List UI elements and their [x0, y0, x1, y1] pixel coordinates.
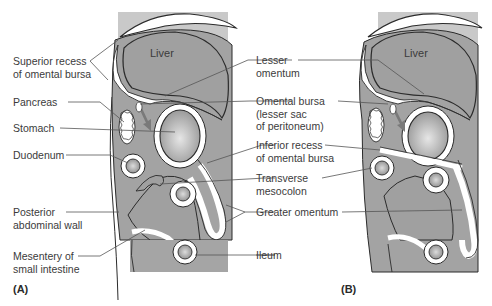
label-pancreas: Pancreas — [13, 96, 57, 109]
label-greater-omentum: Greater omentum — [256, 206, 338, 219]
liver-label-b: Liver — [404, 47, 428, 60]
label-duodenum: Duodenum — [13, 149, 64, 162]
label-posterior-abdominal-wall: Posterior abdominal wall — [13, 206, 82, 231]
label-omental-bursa: Omental bursa (lesser sac of peritoneum) — [256, 95, 325, 133]
label-mesentery: Mesentery of small intestine — [13, 250, 80, 275]
label-ileum: Ileum — [256, 249, 282, 262]
liver-label-a: Liver — [150, 47, 174, 60]
label-lesser-omentum: Lesser omentum — [256, 54, 300, 79]
label-stomach: Stomach — [13, 122, 54, 135]
panel-label-a: (A) — [13, 283, 28, 295]
label-superior-recess: Superior recess of omental bursa — [13, 55, 91, 80]
label-transverse-mesocolon: Transverse mesocolon — [256, 172, 308, 197]
panel-label-b: (B) — [341, 283, 356, 295]
label-inferior-recess: Inferior recess of omental bursa — [256, 139, 334, 164]
